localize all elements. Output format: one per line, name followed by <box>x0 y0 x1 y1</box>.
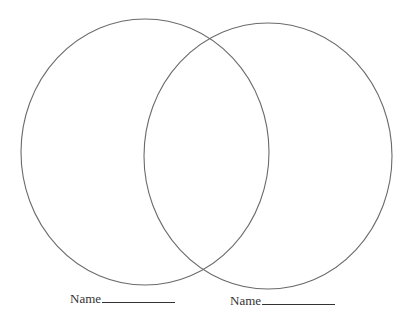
left-name-blank[interactable] <box>102 302 175 303</box>
right-name-label: Name <box>230 293 335 309</box>
left-name-text: Name <box>70 291 101 306</box>
left-circle <box>21 19 269 285</box>
right-name-blank[interactable] <box>262 304 335 305</box>
right-circle <box>144 23 392 289</box>
left-name-label: Name <box>70 291 175 307</box>
venn-diagram <box>0 0 410 323</box>
right-name-text: Name <box>230 293 261 308</box>
